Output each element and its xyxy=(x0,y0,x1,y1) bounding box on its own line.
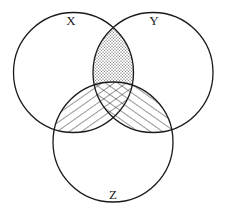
label-z: Z xyxy=(109,187,117,202)
label-y: Y xyxy=(149,13,159,28)
venn-diagram: X Y Z xyxy=(0,0,225,214)
label-x: X xyxy=(66,13,76,28)
